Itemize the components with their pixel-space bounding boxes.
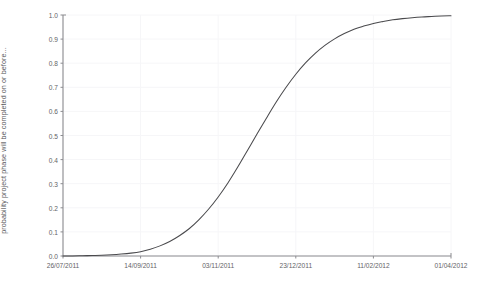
grid-lines (63, 15, 451, 256)
plot-area (0, 0, 479, 281)
chart-container: probability project phase will be comple… (0, 0, 479, 281)
